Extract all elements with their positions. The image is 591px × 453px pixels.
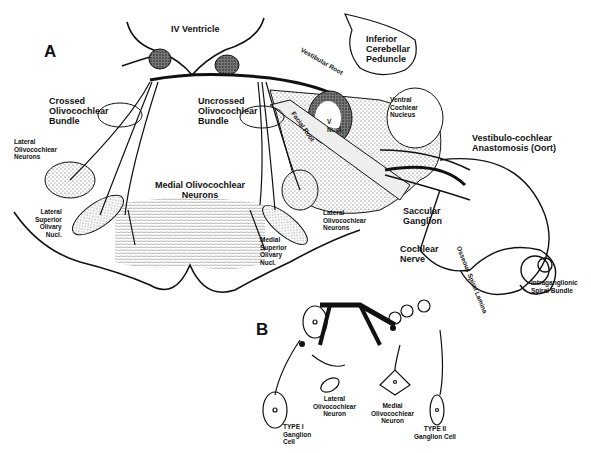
label-lateral-olivocochlear-neurons-right: Lateral Olivocochlear Neurons <box>323 209 366 232</box>
label-cochlear-nerve: Cochlear Nerve <box>400 244 439 264</box>
label-crossed-olivocochlear-bundle: Crossed Olivocochlear Bundle <box>49 96 109 126</box>
left-dorsal-nucleus <box>149 49 171 69</box>
label-lateral-superior-olivary-nucl: Lateral Superior Olivary Nucl. <box>35 208 62 238</box>
label-vestibulo-cochlear-anastomosis: Vestibulo-cochlear Anastomosis (Oort) <box>472 133 556 153</box>
trapezoid-body <box>115 198 265 270</box>
label-ventral-cochlear-nucleus: Ventral Cochlear Nucleus <box>390 96 418 119</box>
label-lateral-olivocochlear-neurons-left: Lateral Olivocochlear Neurons <box>14 138 57 161</box>
label-uncrossed-olivocochlear-bundle: Uncrossed Olivocochlear Bundle <box>198 96 258 126</box>
panel-b-letter: B <box>256 320 268 340</box>
label-saccular-ganglion: Saccular Ganglion <box>403 206 442 226</box>
label-lateral-olivocochlear-neuron: Lateral Olivocochlear Neuron <box>313 395 356 418</box>
label-iv-ventricle: IV Ventricle <box>171 24 220 34</box>
right-dorsal-nucleus <box>215 55 239 75</box>
label-medial-olivocochlear-neuron: Medial Olivocochlear Neuron <box>371 402 414 425</box>
label-type-ii-ganglion-cell: TYPE II Ganglion Cell <box>414 425 456 440</box>
panel-a-letter: A <box>44 42 56 62</box>
label-medial-olivocochlear-neurons: Medial Olivocochlear Neurons <box>155 180 245 200</box>
label-medial-superior-olivary-nucl: Medial Superior Olivary Nucl. <box>260 236 287 266</box>
olivocochlear-diagram: A B IV Ventricle Inferior Cerebellar Ped… <box>0 0 591 453</box>
label-inferior-cerebellar-peduncle: Inferior Cerebellar Peduncle <box>366 34 410 64</box>
label-type-i-ganglion-cell: TYPE I Ganglion Cell <box>283 423 311 446</box>
diagram-drawing <box>0 0 591 453</box>
label-intraganglionic-spiral-bundle: Intraganglionic Spiral Bundle <box>531 279 578 294</box>
label-v-nucl: V Nucl. <box>327 118 343 133</box>
